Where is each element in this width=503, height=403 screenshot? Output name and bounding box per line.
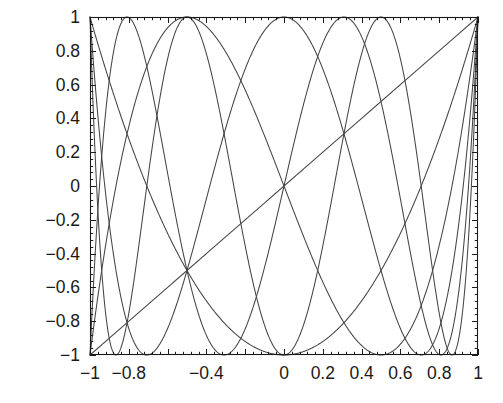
curve-group (90, 17, 478, 355)
chart-canvas: −1−0.8−0.400.20.40.60.81 −1−0.8−0.6−0.4−… (0, 0, 503, 403)
x-tick-label: −0.4 (189, 363, 224, 383)
y-tick-label: 0 (70, 176, 80, 196)
x-tick-label: 0.8 (427, 363, 451, 383)
y-tick-label: −0.6 (45, 277, 80, 297)
x-tick-label: 0.2 (311, 363, 335, 383)
y-tick-label: −0.2 (45, 210, 80, 230)
x-tick-label: −0.8 (112, 363, 147, 383)
y-tick-label: −0.8 (45, 311, 80, 331)
y-tick-label: 0.4 (56, 108, 81, 128)
x-tick-label: −1 (80, 363, 100, 383)
y-tick-label: 0.8 (56, 41, 80, 61)
x-tick-label: 0.6 (388, 363, 412, 383)
x-tick-label: 1 (473, 363, 483, 383)
y-tick-label: −0.4 (45, 244, 80, 264)
x-axis-tick-labels: −1−0.8−0.400.20.40.60.81 (80, 363, 483, 383)
chart-figure: −1−0.8−0.400.20.40.60.81 −1−0.8−0.6−0.4−… (0, 0, 503, 403)
y-axis-tick-labels: −1−0.8−0.6−0.4−0.200.20.40.60.81 (45, 7, 80, 365)
y-tick-label: −1 (60, 345, 80, 365)
y-tick-label: 0.2 (56, 142, 80, 162)
x-tick-label: 0.4 (349, 363, 374, 383)
y-tick-label: 1 (70, 7, 80, 27)
y-tick-label: 0.6 (56, 75, 80, 95)
x-tick-label: 0 (279, 363, 289, 383)
